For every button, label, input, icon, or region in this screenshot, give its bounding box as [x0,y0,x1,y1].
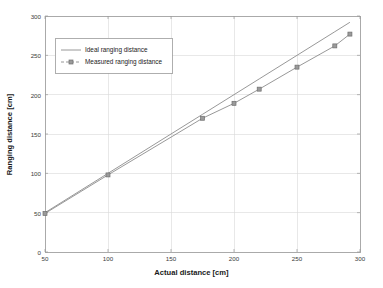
chart-canvas [0,0,383,288]
legend-entry-1: Ideal ranging distance [85,46,148,53]
y-tick-0: 0 [21,249,41,256]
x-tick-50: 50 [42,255,49,262]
chart-figure: Actual distance [cm] Ranging distance [c… [0,0,383,288]
x-tick-250: 250 [292,255,302,262]
x-axis-label: Actual distance [cm] [0,268,383,277]
y-tick-200: 200 [21,91,41,98]
y-tick-250: 250 [21,52,41,59]
y-tick-100: 100 [21,170,41,177]
x-tick-100: 100 [103,255,113,262]
y-tick-300: 300 [21,13,41,20]
x-tick-200: 200 [229,255,239,262]
legend-box [55,38,172,73]
x-tick-300: 300 [355,255,365,262]
y-tick-50: 50 [21,209,41,216]
y-axis-label: Ranging distance [cm] [5,85,14,185]
x-tick-150: 150 [166,255,176,262]
legend-entry-2: Measured ranging distance [85,58,162,65]
y-tick-150: 150 [21,131,41,138]
